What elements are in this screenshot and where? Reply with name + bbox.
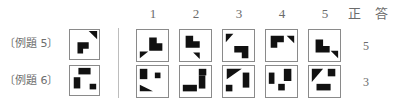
exercise-sheet: 1 2 3 4 5 正 答 〔例題 5〕 5 〔例題 6〕 (0, 0, 399, 106)
row-2-problem-figure (69, 65, 100, 96)
row-2-option-2-svg (180, 66, 211, 97)
row-2-option-4[interactable] (265, 65, 298, 98)
row-1-option-2[interactable] (179, 29, 212, 62)
row-2-option-1[interactable] (136, 65, 169, 98)
row-1-option-1-svg (137, 30, 168, 61)
row-2-option-4-svg (266, 66, 297, 97)
row-2-option-5[interactable] (308, 65, 341, 98)
answer-column-header-tou: 答 (375, 7, 389, 21)
row-1-answer: 5 (356, 39, 376, 53)
row-1-problem-svg (70, 30, 99, 59)
row-2-option-1-svg (137, 66, 168, 97)
row-1-option-5[interactable] (308, 29, 341, 62)
row-1-option-1[interactable] (136, 29, 169, 62)
row-1-problem-figure (69, 29, 100, 60)
column-header-5: 5 (308, 7, 342, 21)
row-1-option-4-svg (266, 30, 297, 61)
column-header-3: 3 (222, 7, 256, 21)
row-1-option-2-svg (180, 30, 211, 61)
row-1-option-3-svg (223, 30, 254, 61)
row-label-exercise-6: 〔例題 6〕 (4, 74, 66, 87)
row-label-exercise-5: 〔例題 5〕 (4, 37, 66, 50)
row-2-option-2[interactable] (179, 65, 212, 98)
row-2-option-5-svg (309, 66, 340, 97)
row-1-option-5-svg (309, 30, 340, 61)
answer-column-header-sei: 正 (348, 7, 362, 21)
column-header-1: 1 (136, 7, 170, 21)
row-2-option-3-svg (223, 66, 254, 97)
row-2-answer: 3 (356, 75, 376, 89)
row-1-option-4[interactable] (265, 29, 298, 62)
row-2-option-3[interactable] (222, 65, 255, 98)
row-2-problem-svg (70, 66, 99, 95)
vertical-divider (118, 28, 119, 98)
row-1-option-3[interactable] (222, 29, 255, 62)
column-header-4: 4 (265, 7, 299, 21)
column-header-2: 2 (179, 7, 213, 21)
